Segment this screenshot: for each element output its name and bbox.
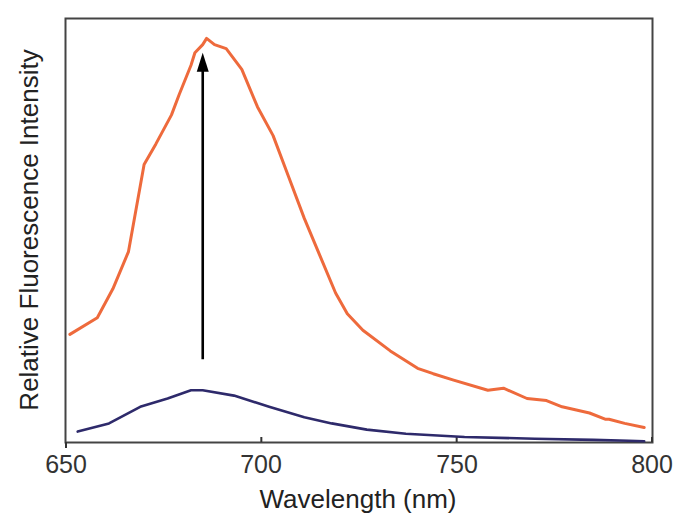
fluorescence-chart: 650 700 750 800 Wavelength (nm) Relative… [0, 0, 691, 530]
increase-arrow-icon [197, 53, 209, 359]
plot-frame [66, 19, 653, 443]
series-line-high [70, 38, 644, 427]
series-line-low [78, 390, 645, 441]
x-tick-label-800: 800 [631, 450, 673, 478]
arrow-head [197, 53, 209, 72]
x-tick-label-750: 750 [436, 450, 478, 478]
x-tick-label-700: 700 [240, 450, 282, 478]
x-axis-title: Wavelength (nm) [260, 484, 457, 514]
y-axis-title: Relative Fluorescence Intensity [14, 49, 44, 410]
x-tick-label-650: 650 [45, 450, 87, 478]
